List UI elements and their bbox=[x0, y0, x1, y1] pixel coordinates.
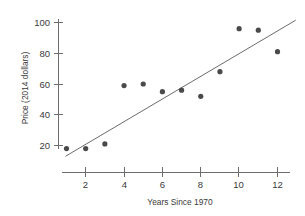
data-point bbox=[275, 49, 280, 54]
data-point bbox=[64, 146, 69, 151]
data-point bbox=[237, 26, 242, 31]
x-axis-title: Years Since 1970 bbox=[147, 197, 213, 207]
data-point bbox=[160, 89, 165, 94]
data-point bbox=[102, 141, 107, 146]
chart-canvas: 100 80 60 40 20 2 4 6 8 10 12 Years Sinc… bbox=[0, 0, 305, 216]
data-point bbox=[179, 88, 184, 93]
y-axis-title: Price (2014 dollars) bbox=[20, 51, 30, 124]
data-point bbox=[217, 69, 222, 74]
y-tick-label: 80 bbox=[39, 48, 50, 59]
data-point bbox=[121, 83, 126, 88]
data-point bbox=[256, 28, 261, 33]
x-tick-label: 4 bbox=[122, 179, 127, 190]
x-tick-label: 2 bbox=[83, 179, 88, 190]
y-tick-label: 40 bbox=[39, 109, 50, 120]
scatter-chart: 100 80 60 40 20 2 4 6 8 10 12 Years Sinc… bbox=[0, 0, 305, 216]
x-tick-label: 10 bbox=[233, 179, 244, 190]
data-points bbox=[64, 26, 280, 151]
data-point bbox=[141, 81, 146, 86]
x-tick-label: 12 bbox=[272, 179, 283, 190]
x-tick-label: 6 bbox=[160, 179, 165, 190]
y-tick-label: 60 bbox=[39, 79, 50, 90]
data-point bbox=[198, 94, 203, 99]
data-point bbox=[83, 146, 88, 151]
x-tick-label: 8 bbox=[198, 179, 203, 190]
y-tick-label: 20 bbox=[39, 140, 50, 151]
y-tick-label: 100 bbox=[34, 17, 50, 28]
